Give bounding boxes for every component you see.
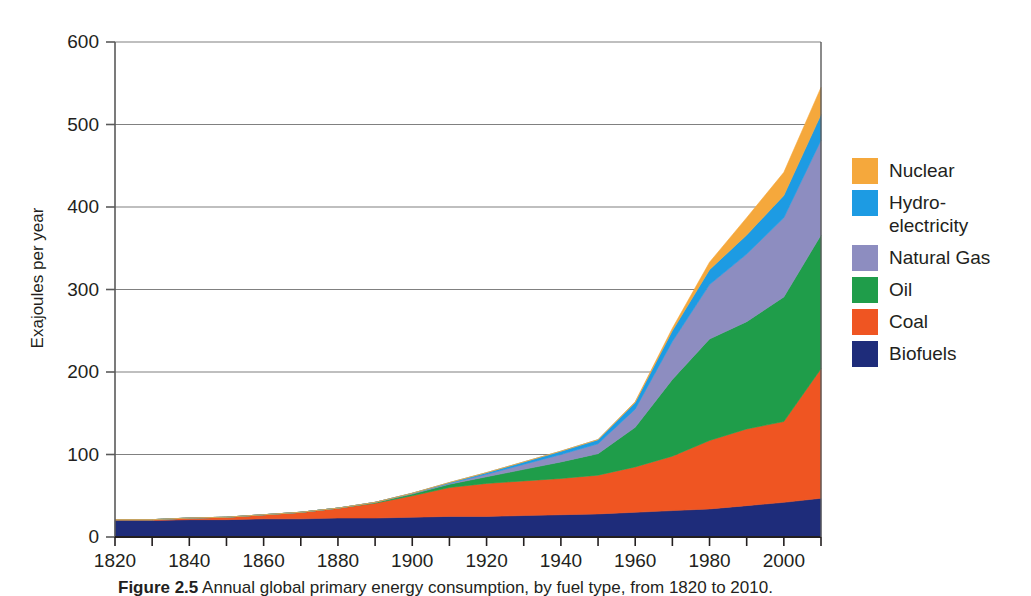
legend-item-label: Nuclear [889, 158, 954, 182]
x-tick-label-2000: 2000 [749, 551, 819, 570]
legend-swatch-icon [852, 158, 878, 184]
legend-item-label: Hydro-electricity [889, 190, 968, 237]
legend-item-biofuels[interactable]: Biofuels [852, 341, 990, 367]
y-tick-label-500: 500 [43, 115, 99, 134]
x-tick-label-1900: 1900 [377, 551, 447, 570]
y-tick-label-600: 600 [43, 32, 99, 51]
caption-text: Annual global primary energy consumption… [202, 578, 773, 596]
x-tick-label-1820: 1820 [80, 551, 150, 570]
legend-swatch-icon [852, 277, 878, 303]
y-tick-label-300: 300 [43, 280, 99, 299]
legend-item-oil[interactable]: Oil [852, 277, 990, 303]
caption-label: Figure 2.5 [118, 578, 198, 596]
x-tick-label-1980: 1980 [675, 551, 745, 570]
legend-item-naturalgas[interactable]: Natural Gas [852, 245, 990, 271]
legend-item-label: Biofuels [889, 341, 957, 365]
legend-item-hydroelectricity[interactable]: Hydro-electricity [852, 190, 990, 237]
x-tick-label-1920: 1920 [452, 551, 522, 570]
legend-item-label: Oil [889, 277, 912, 301]
y-tick-label-100: 100 [43, 445, 99, 464]
legend-swatch-icon [852, 190, 878, 216]
y-tick-label-400: 400 [43, 197, 99, 216]
figure-caption: Figure 2.5 Annual global primary energy … [118, 578, 1018, 596]
figure-energy-consumption: Exajoules per year NuclearHydro-electric… [0, 0, 1031, 596]
y-tick-label-200: 200 [43, 362, 99, 381]
legend-item-label: Natural Gas [889, 245, 990, 269]
legend-swatch-icon [852, 309, 878, 335]
legend-item-label: Coal [889, 309, 928, 333]
x-tick-label-1860: 1860 [229, 551, 299, 570]
legend: NuclearHydro-electricityNatural GasOilCo… [852, 158, 990, 373]
legend-item-coal[interactable]: Coal [852, 309, 990, 335]
x-tick-label-1840: 1840 [154, 551, 224, 570]
y-tick-label-0: 0 [43, 527, 99, 546]
x-tick-label-1960: 1960 [600, 551, 670, 570]
legend-swatch-icon [852, 245, 878, 271]
legend-swatch-icon [852, 341, 878, 367]
x-tick-label-1880: 1880 [303, 551, 373, 570]
legend-item-nuclear[interactable]: Nuclear [852, 158, 990, 184]
x-tick-label-1940: 1940 [526, 551, 596, 570]
